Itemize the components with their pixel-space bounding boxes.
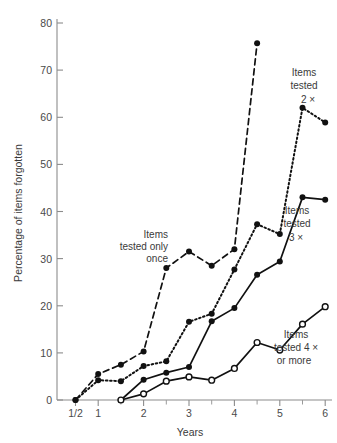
annot-2x-line-1: Items	[292, 67, 316, 78]
x-tick-label-2: 2	[141, 407, 147, 419]
x-axis-ticks: 1/2 1 2 3 4 5 6	[68, 400, 328, 419]
annot-once-line-3: once	[146, 253, 168, 264]
data-point	[186, 319, 192, 325]
data-point	[118, 362, 124, 368]
data-point	[254, 340, 260, 346]
annotation-items-tested-4x-or-more: Items tested 4 × or more	[274, 329, 318, 366]
annot-4x-line-3: or more	[277, 355, 312, 366]
annot-3x-line-3: 3 ×	[289, 232, 303, 243]
y-tick-label-10: 10	[40, 347, 52, 359]
data-point	[163, 358, 169, 364]
data-point	[163, 370, 169, 376]
data-point	[300, 194, 306, 200]
x-tick-label-3: 3	[186, 407, 192, 419]
series-line-4	[121, 307, 325, 400]
y-tick-label-0: 0	[46, 394, 52, 406]
data-point	[254, 272, 260, 278]
data-point	[300, 321, 306, 327]
data-point	[73, 397, 79, 403]
x-tick-label-5: 5	[277, 407, 283, 419]
data-point	[232, 366, 238, 372]
data-point	[254, 221, 260, 227]
data-point	[186, 249, 192, 255]
annot-once-line-2: tested only	[120, 241, 168, 252]
data-point	[141, 363, 147, 369]
y-tick-label-80: 80	[40, 17, 52, 29]
y-axis-ticks: 0 10 20 30 40 50 60 70 80	[40, 17, 63, 406]
data-point	[209, 318, 215, 324]
annotation-items-tested-once: Items tested only once	[120, 229, 169, 264]
forgetting-curve-line-chart: 0 10 20 30 40 50 60 70 80 1/2 1 2	[0, 0, 337, 443]
data-point	[300, 105, 306, 111]
data-point	[231, 266, 237, 272]
data-point	[95, 377, 101, 383]
annot-2x-line-2: tested	[290, 80, 317, 91]
data-point	[322, 119, 328, 125]
y-tick-label-40: 40	[40, 206, 52, 218]
series-line-1	[76, 43, 258, 400]
annot-3x-line-1: Items	[285, 205, 309, 216]
data-point	[254, 40, 260, 46]
data-point	[163, 378, 169, 384]
y-tick-label-20: 20	[40, 300, 52, 312]
annot-4x-line-1: Items	[284, 329, 308, 340]
data-point	[163, 265, 169, 271]
data-point	[209, 311, 215, 317]
data-point	[118, 397, 124, 403]
data-point	[186, 364, 192, 370]
x-tick-label-6: 6	[322, 407, 328, 419]
data-point	[277, 258, 283, 264]
data-point	[209, 263, 215, 269]
data-point	[209, 377, 215, 383]
data-point	[277, 231, 283, 237]
x-tick-label-1: 1	[95, 407, 101, 419]
data-point	[141, 391, 147, 397]
series-1	[73, 40, 261, 403]
series-4	[118, 304, 328, 403]
y-tick-label-50: 50	[40, 158, 52, 170]
y-axis-title: Percentage of items forgotten	[12, 144, 24, 282]
chart-container: 0 10 20 30 40 50 60 70 80 1/2 1 2	[0, 0, 337, 443]
data-point	[231, 305, 237, 311]
annot-4x-line-2: tested 4 ×	[274, 342, 318, 353]
data-point	[141, 377, 147, 383]
y-tick-label-30: 30	[40, 253, 52, 265]
y-tick-label-70: 70	[40, 64, 52, 76]
annot-once-line-1: Items	[144, 229, 168, 240]
data-point	[322, 197, 328, 203]
data-point	[231, 246, 237, 252]
data-point	[95, 371, 101, 377]
x-tick-label-4: 4	[231, 407, 237, 419]
annot-2x-line-3: 2 ×	[301, 94, 315, 105]
data-point	[141, 348, 147, 354]
data-point	[186, 374, 192, 380]
data-point	[322, 304, 328, 310]
y-tick-label-60: 60	[40, 111, 52, 123]
x-tick-label-half: 1/2	[68, 407, 83, 419]
cropped-page-artifact	[17, 0, 31, 6]
annot-3x-line-2: tested	[283, 218, 310, 229]
x-axis-title: Years	[177, 426, 203, 438]
annotation-items-tested-2x: Items tested 2 ×	[290, 67, 317, 105]
data-point	[118, 378, 124, 384]
